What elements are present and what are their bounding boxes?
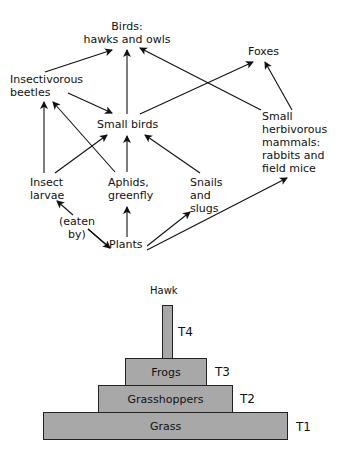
node-beetles-line1: Insectivorous: [10, 73, 83, 86]
node-mammals-line1: Small: [262, 110, 327, 123]
node-larvae-line1: Insect: [30, 176, 64, 189]
annotation-eaten-by: (eaten by): [57, 215, 97, 241]
node-beetles-line2: beetles: [10, 86, 83, 99]
node-snails-line2: and: [190, 189, 223, 202]
pyramid-level-frogs-name: Frogs: [151, 366, 180, 379]
node-foxes: Foxes: [248, 45, 279, 58]
node-small-birds: Small birds: [97, 118, 158, 131]
node-aphids-greenfly: Aphids, greenfly: [108, 176, 153, 202]
node-plants: Plants: [109, 238, 142, 251]
annotation-line2: by): [57, 228, 97, 241]
node-mammals-line5: field mice: [262, 162, 327, 175]
node-aphids-line2: greenfly: [108, 189, 153, 202]
node-snails-and-slugs: Snails and slugs: [190, 176, 223, 215]
node-birds-line1: Birds:: [82, 20, 172, 33]
node-larvae-line2: larvae: [30, 189, 64, 202]
node-mammals-line2: herbivorous: [262, 123, 327, 136]
node-snails-line1: Snails: [190, 176, 223, 189]
pyramid-level-t1-label: T1: [296, 420, 311, 434]
node-insect-larvae: Insect larvae: [30, 176, 64, 202]
node-small-herbivorous-mammals: Small herbivorous mammals: rabbits and f…: [262, 110, 327, 175]
pyramid-level-grass-name: Grass: [150, 420, 181, 433]
node-mammals-line4: rabbits and: [262, 149, 327, 162]
pyramid-level-grasshoppers: Grasshoppers: [98, 385, 233, 413]
pyramid-top-label: Hawk: [150, 284, 178, 297]
node-insectivorous-beetles: Insectivorous beetles: [10, 73, 83, 99]
node-mammals-line3: mammals:: [262, 136, 327, 149]
pyramid-level-t4-label: T4: [178, 325, 193, 339]
annotation-line1: (eaten: [57, 215, 97, 228]
node-birds-line2: hawks and owls: [82, 33, 172, 46]
pyramid-level-grasshoppers-name: Grasshoppers: [128, 393, 204, 406]
node-snails-line3: slugs: [190, 202, 223, 215]
pyramid-level-t3-label: T3: [215, 365, 230, 379]
pyramid-level-t4-bar: [162, 305, 173, 359]
node-birds: Birds: hawks and owls: [82, 20, 172, 46]
node-aphids-line1: Aphids,: [108, 176, 153, 189]
pyramid-level-t2-label: T2: [240, 392, 255, 406]
pyramid-level-grass: Grass: [43, 412, 288, 440]
pyramid-level-frogs: Frogs: [125, 358, 207, 386]
